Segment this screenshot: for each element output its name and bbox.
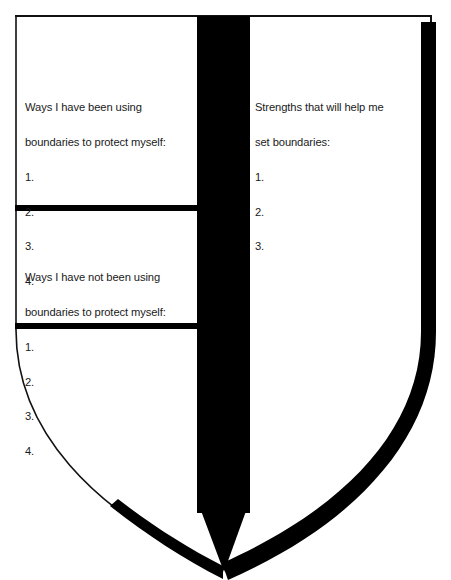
panel-ways-not-using-boundaries: Ways I have not been using boundaries to… <box>25 249 190 481</box>
panel-heading-line-2: set boundaries: <box>255 137 430 149</box>
list-item-1[interactable]: 1. <box>25 342 190 354</box>
list-item-2[interactable]: 2. <box>25 207 190 219</box>
worksheet-page: Ways I have been using boundaries to pro… <box>0 0 451 580</box>
list-item-2[interactable]: 2. <box>25 377 190 389</box>
panel-heading-line-2: boundaries to protect myself: <box>25 137 190 149</box>
list-item-3[interactable]: 3. <box>255 241 430 253</box>
shield-center-band <box>197 16 250 513</box>
panel-strengths: Strengths that will help me set boundari… <box>255 79 430 276</box>
list-item-1[interactable]: 1. <box>255 172 430 184</box>
list-item-2[interactable]: 2. <box>255 207 430 219</box>
panel-heading-line-1: Ways I have not been using <box>25 272 190 284</box>
panel-heading-line-1: Strengths that will help me <box>255 102 430 114</box>
list-item-1[interactable]: 1. <box>25 172 190 184</box>
list-item-3[interactable]: 3. <box>25 411 190 423</box>
list-item-4[interactable]: 4. <box>25 446 190 458</box>
panel-heading-line-1: Ways I have been using <box>25 102 190 114</box>
panel-heading-line-2: boundaries to protect myself: <box>25 307 190 319</box>
